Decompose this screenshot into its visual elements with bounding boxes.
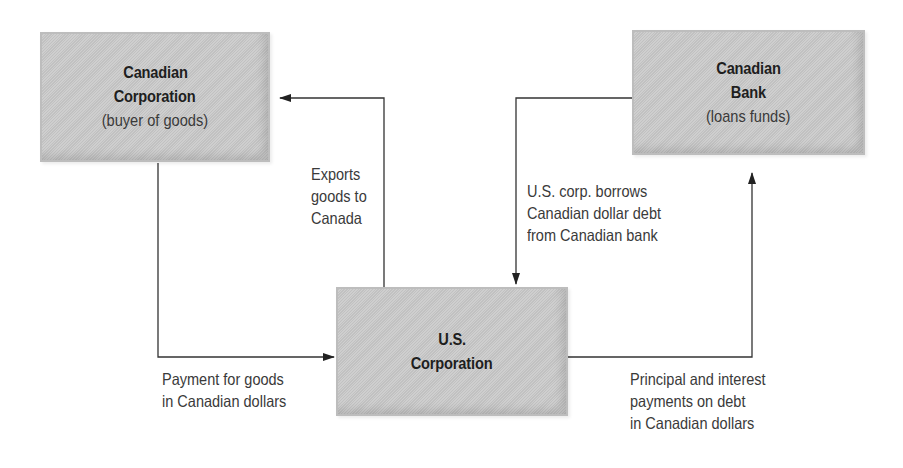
label-line: payments on debt [630,390,766,412]
label-line: in Canadian dollars [162,390,286,412]
label-repay: Principal and interest payments on debt … [630,368,766,434]
arrow-payment [158,163,334,357]
label-payment: Payment for goods in Canadian dollars [162,368,286,412]
node-title: U.S. [438,328,466,352]
label-line: Exports [311,163,367,185]
label-line: Canada [311,207,367,229]
node-title: Bank [731,81,766,105]
label-line: from Canadian bank [527,224,661,246]
label-exports: Exports goods to Canada [311,163,367,229]
label-borrow: U.S. corp. borrows Canadian dollar debt … [527,180,661,246]
node-canadian-bank: Canadian Bank (loans funds) [632,30,865,155]
node-title: Canadian [716,57,780,81]
node-subtitle: (loans funds) [706,105,791,129]
node-title: Corporation [114,85,196,109]
node-canadian-corporation: Canadian Corporation (buyer of goods) [40,32,270,162]
node-us-corporation: U.S. Corporation [336,287,568,416]
node-title: Corporation [411,352,493,376]
label-line: Canadian dollar debt [527,202,661,224]
label-line: Payment for goods [162,368,286,390]
label-line: Principal and interest [630,368,766,390]
label-line: U.S. corp. borrows [527,180,661,202]
node-title: Canadian [123,61,187,85]
node-subtitle: (buyer of goods) [102,109,208,133]
label-line: in Canadian dollars [630,412,766,434]
label-line: goods to [311,185,367,207]
